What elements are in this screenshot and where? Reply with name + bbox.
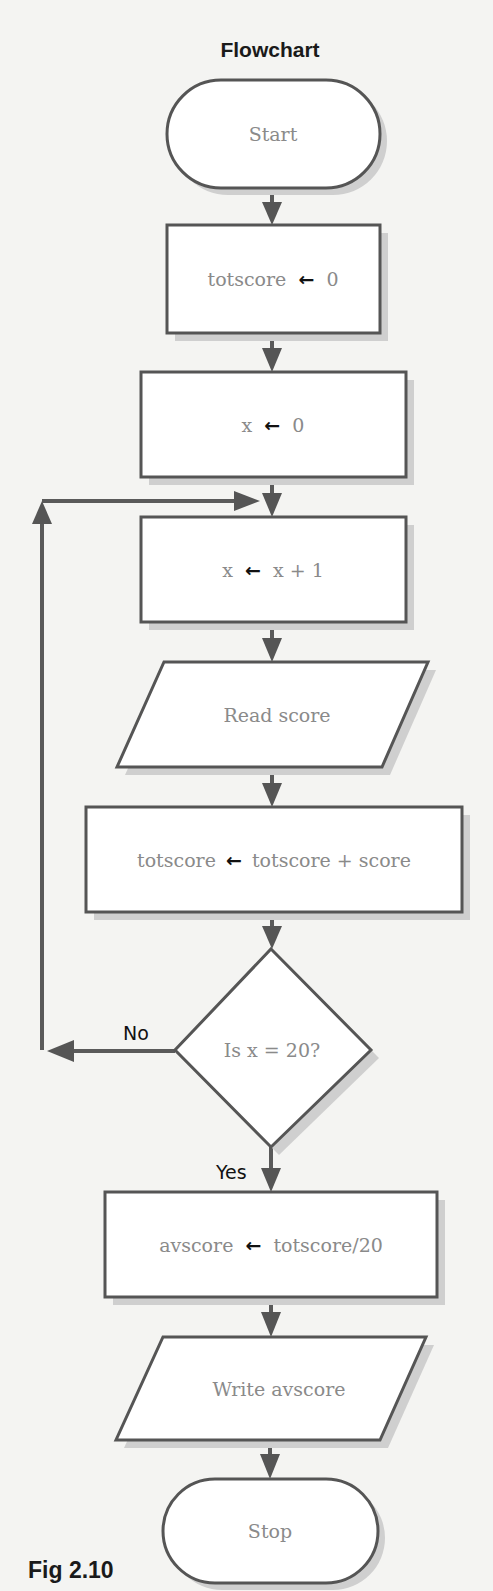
node-init-x: x ← 0 — [141, 372, 414, 485]
assign-arrow-icon: ← — [245, 1234, 261, 1256]
arrow-head-icon — [262, 926, 282, 949]
node-init-x-label: x ← 0 — [242, 414, 305, 436]
assign-arrow-icon: ← — [298, 268, 314, 290]
arrow-head-icon — [262, 638, 282, 662]
flowchart-diagram: Flowchart — [0, 0, 493, 1591]
arrow-head-icon — [32, 501, 52, 524]
diagram-title: Flowchart — [220, 38, 319, 61]
figure-caption: Fig 2.10 — [28, 1557, 114, 1583]
node-accum: totscore ← totscore + score — [86, 807, 470, 920]
node-write-label: Write avscore — [213, 1378, 346, 1400]
arrow-head-icon — [261, 1312, 281, 1337]
arrow-head-icon — [234, 491, 260, 511]
assign-lhs: x — [222, 559, 233, 581]
node-incr-x: x ← x + 1 — [141, 517, 414, 630]
node-write: Write avscore — [116, 1337, 434, 1448]
node-init-total-label: totscore ← 0 — [208, 268, 339, 290]
node-init-total: totscore ← 0 — [167, 225, 388, 341]
assign-lhs: totscore — [137, 849, 216, 871]
node-accum-label: totscore ← totscore + score — [137, 849, 411, 871]
assign-arrow-icon: ← — [226, 849, 242, 871]
assign-lhs: avscore — [159, 1234, 233, 1256]
arrow-head-icon — [262, 202, 282, 225]
assign-rhs: x + 1 — [273, 559, 324, 581]
node-average: avscore ← totscore/20 — [105, 1192, 445, 1305]
node-stop: Stop — [163, 1479, 385, 1590]
assign-arrow-icon: ← — [245, 559, 261, 581]
assign-arrow-icon: ← — [264, 414, 280, 436]
node-read-label: Read score — [223, 704, 330, 726]
arrow-head-icon — [260, 1454, 280, 1479]
branch-label-no: No — [123, 1022, 149, 1044]
arrow-head-icon — [47, 1040, 74, 1062]
assign-rhs: 0 — [292, 414, 304, 436]
node-incr-x-label: x ← x + 1 — [222, 559, 324, 581]
arrow-head-icon — [262, 783, 282, 807]
node-start: Start — [167, 80, 387, 195]
node-read: Read score — [117, 662, 436, 775]
branch-label-yes: Yes — [215, 1161, 247, 1183]
node-stop-label: Stop — [248, 1520, 292, 1542]
node-decision: Is x = 20? — [175, 949, 379, 1155]
assign-rhs: totscore/20 — [273, 1234, 382, 1256]
node-decision-label: Is x = 20? — [224, 1039, 320, 1061]
assign-rhs: 0 — [326, 268, 338, 290]
assign-lhs: totscore — [208, 268, 287, 290]
arrow-head-icon — [262, 348, 282, 372]
arrow-head-icon — [261, 1168, 281, 1192]
assign-lhs: x — [242, 414, 253, 436]
arrow-head-icon — [262, 493, 282, 517]
assign-rhs: totscore + score — [252, 849, 411, 871]
node-start-label: Start — [249, 123, 298, 145]
